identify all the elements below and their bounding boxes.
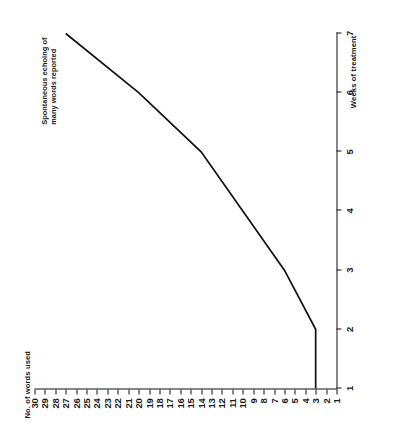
- figure-root: 1234567 12345678910111213141516171819202…: [0, 0, 401, 424]
- rotated-chart-canvas: 1234567 12345678910111213141516171819202…: [0, 0, 401, 424]
- data-series-line: [0, 0, 401, 424]
